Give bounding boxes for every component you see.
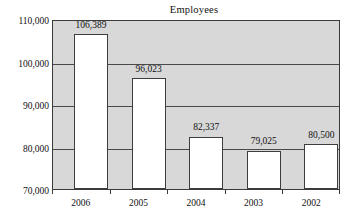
x-axis-tick	[110, 190, 111, 194]
y-axis-tick-label: 110,000	[1, 16, 49, 26]
value-label-2006: 106,389	[61, 20, 121, 31]
employees-bar-chart: Employees 110,000 100,000 90,000 80,000 …	[0, 0, 352, 222]
y-axis: 110,000 100,000 90,000 80,000 70,000	[0, 20, 49, 190]
y-axis-tick-label: 90,000	[1, 101, 49, 111]
y-axis-tick-label: 80,000	[1, 144, 49, 154]
x-axis-tick	[282, 190, 283, 194]
value-label-2004: 82,337	[176, 122, 236, 133]
y-axis-tick-label: 100,000	[1, 59, 49, 69]
chart-title: Employees	[0, 4, 352, 15]
bar-2005[interactable]	[132, 78, 166, 189]
plot-area: 106,389 96,023 82,337 79,025 80,500	[52, 20, 340, 190]
bar-2004[interactable]	[189, 137, 223, 189]
x-axis: 2006 2005 2004 2003 2002	[52, 190, 340, 220]
value-label-2003: 79,025	[234, 136, 294, 147]
y-axis-tick-label: 70,000	[1, 186, 49, 196]
x-axis-label-2002: 2002	[291, 198, 331, 209]
bar-2002[interactable]	[304, 144, 338, 189]
x-axis-label-2004: 2004	[176, 198, 216, 209]
x-axis-label-2005: 2005	[118, 198, 158, 209]
bars-layer	[53, 21, 339, 189]
bar-2006[interactable]	[74, 34, 108, 189]
value-label-2005: 96,023	[119, 64, 179, 75]
value-label-2002: 80,500	[291, 130, 351, 141]
x-axis-tick	[167, 190, 168, 194]
x-axis-tick	[339, 190, 340, 194]
chart-title-text: Employees	[170, 4, 218, 15]
bar-2003[interactable]	[247, 151, 281, 189]
x-axis-label-2006: 2006	[61, 198, 101, 209]
x-axis-tick	[225, 190, 226, 194]
x-axis-tick	[52, 190, 53, 194]
x-axis-label-2003: 2003	[234, 198, 274, 209]
